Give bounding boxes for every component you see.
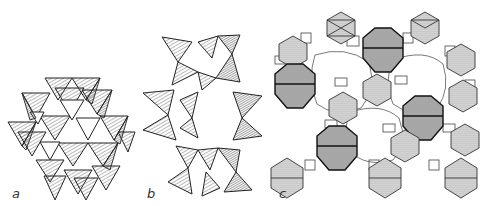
panel-a: a bbox=[0, 0, 140, 206]
tetrahedra-ring-drawing bbox=[140, 0, 265, 206]
panel-label-c: c bbox=[279, 187, 286, 200]
panel-c: c bbox=[265, 0, 483, 206]
panel-label-b: b bbox=[147, 187, 155, 200]
sodalite-cage-framework-drawing bbox=[265, 0, 483, 206]
panel-label-a: a bbox=[12, 187, 20, 200]
panel-b: b bbox=[140, 0, 265, 206]
tetrahedra-packing-drawing bbox=[0, 0, 140, 206]
